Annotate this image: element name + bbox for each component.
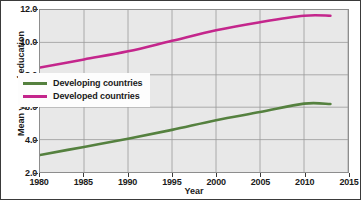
x-tick-mark — [172, 173, 173, 177]
x-tick-label: 2000 — [207, 178, 226, 187]
x-tick-mark — [216, 173, 217, 177]
series-line — [40, 103, 330, 155]
y-tick-mark — [34, 42, 38, 43]
x-tick-label: 2010 — [295, 178, 314, 187]
legend-item-label: Developing countries — [53, 79, 143, 88]
series-line — [40, 15, 330, 67]
x-tick-label: 1980 — [29, 178, 48, 187]
legend-color-swatch — [23, 82, 47, 85]
x-tick-label: 2015 — [339, 178, 358, 187]
x-tick-label: 1985 — [74, 178, 93, 187]
x-tick-label: 1990 — [118, 178, 137, 187]
x-tick-label: 1995 — [162, 178, 181, 187]
x-tick-mark — [83, 173, 84, 177]
y-tick-mark — [34, 107, 38, 108]
x-tick-mark — [128, 173, 129, 177]
x-tick-mark — [305, 173, 306, 177]
legend-color-swatch — [23, 95, 47, 98]
x-tick-mark — [39, 173, 40, 177]
x-tick-mark — [260, 173, 261, 177]
legend-item-label: Developed countries — [53, 92, 140, 101]
y-tick-mark — [34, 9, 38, 10]
x-axis-title: Year — [39, 187, 349, 196]
chart-figure: 2.04.06.08.010.012.0 Mean years of educa… — [0, 0, 361, 200]
x-tick-label: 2005 — [251, 178, 270, 187]
y-tick-mark — [34, 173, 38, 174]
x-tick-mark — [349, 173, 350, 177]
chart-legend: Developing countriesDeveloped countries — [18, 73, 150, 107]
legend-item: Developing countries — [23, 77, 143, 90]
y-tick-mark — [34, 140, 38, 141]
legend-item: Developed countries — [23, 90, 143, 103]
